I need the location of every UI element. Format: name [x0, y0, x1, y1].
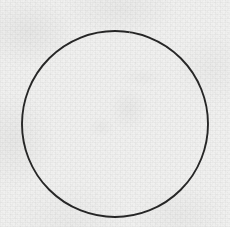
scanned-image-canvas: A single thin dark circle drawn on a lig… [0, 0, 230, 227]
circle-drawing-svg [0, 0, 230, 227]
drawing-layer [0, 0, 230, 227]
circle-outline [22, 31, 208, 217]
